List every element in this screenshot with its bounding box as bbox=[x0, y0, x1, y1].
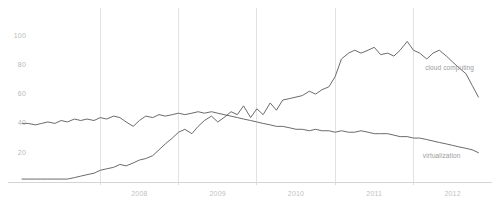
y-tick-label-20: 20 bbox=[0, 149, 26, 156]
series-label-virtualization: virtualization bbox=[423, 153, 461, 160]
chart-plot-area bbox=[0, 0, 496, 210]
trends-line-chart: 20406080100 20082009201020112012 cloud c… bbox=[0, 0, 496, 210]
series-lines bbox=[22, 41, 478, 179]
x-tick-label-2009: 2009 bbox=[198, 190, 238, 197]
x-tick-label-2008: 2008 bbox=[119, 190, 159, 197]
y-tick-label-40: 40 bbox=[0, 119, 26, 126]
y-tick-label-60: 60 bbox=[0, 90, 26, 97]
y-tick-label-80: 80 bbox=[0, 61, 26, 68]
x-tick-label-2012: 2012 bbox=[433, 190, 473, 197]
series-line-cloud-computing bbox=[22, 41, 478, 179]
gridlines bbox=[100, 8, 413, 182]
y-tick-label-100: 100 bbox=[0, 32, 26, 39]
x-tick-label-2011: 2011 bbox=[354, 190, 394, 197]
series-label-cloud-computing: cloud computing bbox=[425, 65, 474, 72]
x-tick-label-2010: 2010 bbox=[276, 190, 316, 197]
